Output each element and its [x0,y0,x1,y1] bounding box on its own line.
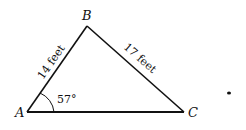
angle-a-label: 57° [57,93,77,106]
stray-dot [227,91,231,94]
side-bc-label: 17 feet [121,40,159,76]
vertex-b-label: B [81,8,92,23]
side-bc [87,26,184,112]
angle-a-arc [40,93,54,112]
vertex-c-label: C [188,105,198,120]
vertex-a-label: A [14,105,24,120]
triangle-diagram: B A C 14 feet 17 feet 57° [0,0,246,130]
